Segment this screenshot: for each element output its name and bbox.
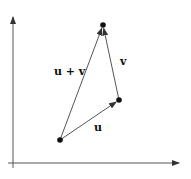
- vector-diagram: u v u + v: [0, 0, 191, 179]
- origin-point: [57, 137, 63, 143]
- u-tip-point: [116, 97, 122, 103]
- vector-u-plus-v-label: u + v: [54, 65, 86, 78]
- vector-v-arrow: [104, 28, 119, 100]
- vector-u-label: u: [94, 121, 102, 134]
- vector-u-arrow: [60, 102, 116, 140]
- vector-v-label: v: [119, 55, 127, 68]
- sum-tip-point: [100, 22, 106, 28]
